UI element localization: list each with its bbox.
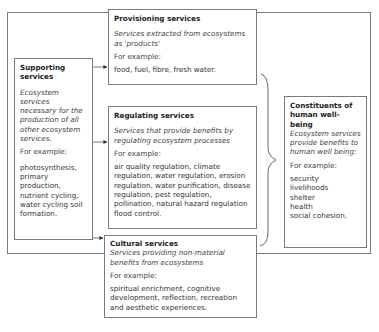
constituents-title: Constituents of human well-being <box>290 101 361 129</box>
constituents-box: Constituents of human well-being Ecosyst… <box>284 96 367 248</box>
constituent-item: security <box>290 174 361 183</box>
constituent-item: shelter <box>290 193 361 202</box>
cultural-title: Cultural services <box>110 239 251 248</box>
cultural-example-label: For example: <box>110 271 251 280</box>
regulating-services-box: Regulating services Services that provid… <box>108 106 257 229</box>
supporting-services-box: Supporting services Ecosystem services n… <box>14 58 93 240</box>
provisioning-services-box: Provisioning services Services extracted… <box>108 9 257 85</box>
constituent-item: livelihoods <box>290 183 361 192</box>
provisioning-examples: food, fuel, fibre, fresh water. <box>114 65 251 74</box>
cultural-description: Services providing non-material benefits… <box>110 248 251 267</box>
supporting-example-label: For example: <box>20 147 87 156</box>
constituents-example-label: For example: <box>290 161 361 170</box>
regulating-title: Regulating services <box>114 111 251 120</box>
regulating-description: Services that provide benefits by regula… <box>114 126 251 145</box>
supporting-description: Ecosystem services necessary for the pro… <box>20 88 87 144</box>
constituents-description: Ecosystem services provide benefits to h… <box>290 129 361 157</box>
regulating-example-label: For example: <box>114 149 251 158</box>
supporting-examples: photosynthesis, primary production, nutr… <box>20 163 87 219</box>
cultural-services-box: Cultural services Services providing non… <box>104 235 257 318</box>
constituents-examples: security livelihoods shelter health soci… <box>290 174 361 220</box>
cultural-examples: spiritual enrichment, cognitive developm… <box>110 284 251 312</box>
constituent-item: health <box>290 202 361 211</box>
provisioning-description: Services extracted from ecosystems as 'p… <box>114 29 251 48</box>
provisioning-example-label: For example: <box>114 52 251 61</box>
brace-icon <box>260 74 276 246</box>
supporting-title: Supporting services <box>20 63 87 82</box>
regulating-examples: air quality regulation, climate regulati… <box>114 162 251 218</box>
constituent-item: social cohesion. <box>290 211 361 220</box>
provisioning-title: Provisioning services <box>114 14 251 23</box>
